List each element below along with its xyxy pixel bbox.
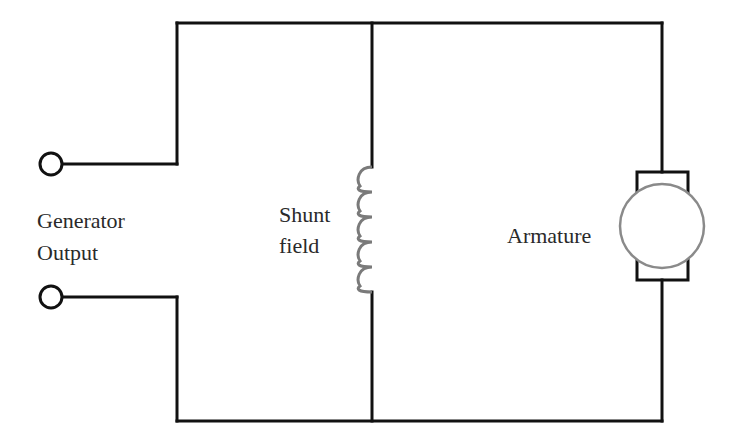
negative-terminal-icon <box>40 286 62 308</box>
generator-output-label-line1: Generator <box>37 208 126 233</box>
generator-output-label-line2: Output <box>37 240 98 265</box>
armature-icon <box>620 184 704 268</box>
shunt-field-label-line1: Shunt <box>279 202 330 227</box>
shunt-generator-circuit-diagram: Generator Output Shunt field Armature <box>0 0 735 444</box>
positive-terminal-icon <box>40 153 62 175</box>
shunt-field-coil-icon <box>358 167 372 292</box>
armature-label: Armature <box>507 223 591 248</box>
shunt-field-label-line2: field <box>279 233 319 258</box>
